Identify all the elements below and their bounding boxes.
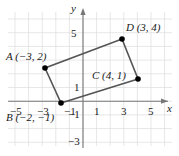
point-A-label: A (−3, 2): [5, 50, 47, 63]
point-D-marker: [119, 36, 125, 42]
y-axis-arrow: [80, 8, 85, 15]
point-A-marker: [42, 65, 48, 71]
y-tick-label--3: −3: [68, 135, 80, 147]
y-tick-label--1: −1: [68, 108, 80, 120]
point-D-label: D (3, 4): [125, 21, 161, 34]
x-tick-label--5: −5: [10, 105, 22, 117]
point-C-label: C (4, 1): [92, 69, 126, 82]
x-tick-label--3: −3: [37, 105, 49, 117]
point-C-marker: [135, 76, 141, 82]
x-tick-label-1: 1: [94, 105, 100, 117]
x-tick-label-5: 5: [148, 105, 154, 117]
x-axis-label: x: [166, 102, 172, 114]
coordinate-plane-figure: A (−3, 2) B (−2, −1) C (4, 1) D (3, 4) −…: [0, 0, 179, 156]
y-axis-label: y: [70, 2, 76, 14]
y-tick-label-5: 5: [71, 27, 77, 39]
graph-canvas: A (−3, 2) B (−2, −1) C (4, 1) D (3, 4) −…: [0, 0, 179, 156]
x-tick-label-3: 3: [121, 105, 127, 117]
y-tick-label-1: 1: [74, 81, 80, 93]
point-B-marker: [58, 100, 64, 106]
